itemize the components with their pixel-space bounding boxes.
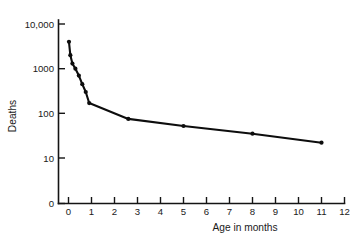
y-tick-label-10000: 10,000	[25, 19, 54, 30]
y-tick-label-0: 0	[49, 198, 54, 209]
y-tick-label-100: 100	[38, 108, 54, 119]
y-axis-title: Deaths	[7, 100, 18, 132]
x-tick-label-9: 9	[273, 206, 278, 217]
data-point	[70, 61, 74, 65]
y-tick-label-1000: 1000	[33, 63, 54, 74]
x-axis-ticks	[69, 197, 345, 204]
series-markers-deaths	[67, 40, 324, 145]
data-point	[73, 67, 77, 71]
x-tick-label-7: 7	[227, 206, 232, 217]
chart-canvas: 10,000 1000 100 10 0 0 1 2 3	[0, 0, 357, 245]
data-point	[67, 40, 71, 44]
x-tick-label-11: 11	[317, 206, 327, 217]
x-tick-label-1: 1	[89, 206, 94, 217]
x-tick-label-3: 3	[135, 206, 140, 217]
x-axis-title: Age in months	[212, 222, 277, 233]
series-line-deaths	[69, 42, 322, 143]
x-tick-label-2: 2	[112, 206, 117, 217]
data-series-deaths	[67, 40, 324, 145]
x-tick-label-0: 0	[66, 206, 71, 217]
x-tick-label-10: 10	[293, 206, 304, 217]
data-point	[80, 82, 84, 86]
data-point	[68, 53, 72, 57]
x-axis-tick-labels: 0 1 2 3 4 5 6 7 8 9 10 11 12	[66, 206, 350, 217]
data-point	[87, 101, 91, 105]
chart-figure: 10,000 1000 100 10 0 0 1 2 3	[0, 0, 357, 245]
x-tick-label-5: 5	[181, 206, 186, 217]
x-tick-label-6: 6	[204, 206, 209, 217]
y-axis-ticks	[59, 24, 66, 204]
x-tick-label-12: 12	[339, 206, 350, 217]
data-point	[319, 141, 323, 145]
data-point	[126, 117, 130, 121]
data-point	[250, 132, 254, 136]
data-point	[77, 73, 81, 77]
x-tick-label-8: 8	[250, 206, 255, 217]
data-point	[84, 90, 88, 94]
data-point	[181, 124, 185, 128]
x-tick-label-4: 4	[158, 206, 164, 217]
y-tick-label-10: 10	[43, 153, 54, 164]
y-axis-tick-labels: 10,000 1000 100 10 0	[25, 19, 54, 210]
